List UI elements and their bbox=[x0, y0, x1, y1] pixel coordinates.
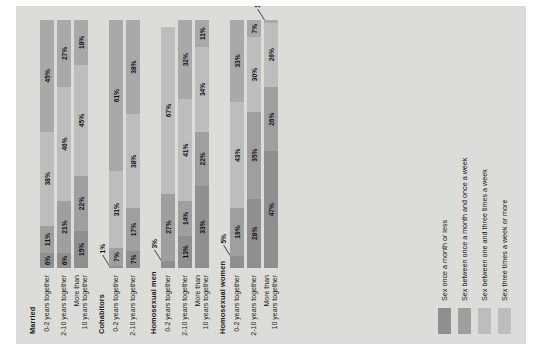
bar-row-label: 0-2 years together bbox=[160, 272, 176, 334]
bar-segment: 28% bbox=[247, 199, 261, 268]
bar-row-label: 0-2 years together bbox=[39, 272, 55, 334]
bar-row-label-line: 2-10 years together bbox=[250, 275, 258, 336]
legend-label: Sex three times a week or more bbox=[500, 200, 509, 301]
bar-segment: 11% bbox=[195, 20, 209, 47]
group-heading-homosexual-women: Homosexual women bbox=[218, 261, 227, 334]
bar-segment-value: 28% bbox=[251, 227, 258, 240]
bar-row: 0-2 years together6%11%38%45% bbox=[39, 16, 55, 334]
bar-segment-value: 11% bbox=[199, 27, 206, 40]
bar-segment-value: 38% bbox=[130, 61, 137, 74]
bar-row: 0-2 years together7%31%61% bbox=[108, 16, 124, 334]
bar-segment-value: 33% bbox=[234, 54, 241, 67]
bar-segment bbox=[161, 261, 175, 268]
bar-segment: 6% bbox=[40, 253, 54, 268]
bar-row-label: More than10 years together bbox=[263, 272, 279, 334]
bar-segment-value: 43% bbox=[234, 149, 241, 162]
chart-board: Married0-2 years together6%11%38%45%2-10… bbox=[16, 6, 526, 344]
bar-segment: 31% bbox=[109, 171, 123, 248]
bar-segment-value: 33% bbox=[199, 220, 206, 233]
bar-segment: 38% bbox=[126, 114, 140, 208]
bar-segment-value: 67% bbox=[165, 104, 172, 117]
bar-segment: 17% bbox=[126, 208, 140, 250]
bar-segment bbox=[264, 20, 278, 22]
legend-swatch bbox=[458, 308, 471, 334]
stacked-bar: 27%67% bbox=[161, 20, 175, 268]
bar-segment-value: 7% bbox=[130, 255, 137, 265]
bar-segment-value: 31% bbox=[113, 203, 120, 216]
bar-row-label-line: 10 years together bbox=[202, 275, 210, 329]
bar-segment-value: 7% bbox=[113, 252, 120, 262]
bar-row-label-line: 0-2 years together bbox=[43, 275, 51, 332]
bar-segment: 26% bbox=[264, 87, 278, 151]
bar-row: More than10 years together47%26%26% bbox=[263, 16, 279, 334]
bar-segment: 11% bbox=[40, 226, 54, 253]
bar-segment-value: 61% bbox=[113, 89, 120, 102]
bar-row-label-line: 2-10 years together bbox=[181, 275, 189, 336]
bar-segment-value: 46% bbox=[61, 137, 68, 150]
bar-row-label: More than10 years together bbox=[73, 272, 89, 334]
legend-label: Sex between once a month and once a week bbox=[460, 158, 469, 301]
bar-segment bbox=[109, 266, 123, 268]
bar-segment-value: 47% bbox=[268, 203, 275, 216]
bar-row-label-line: 0-2 years together bbox=[164, 275, 172, 332]
legend-swatch bbox=[438, 308, 451, 334]
bar-segment-value: 32% bbox=[182, 53, 189, 66]
bar-segment: 43% bbox=[230, 102, 244, 209]
bar-segment: 13% bbox=[178, 236, 192, 268]
legend-item: Sex between once a month and once a week bbox=[456, 16, 473, 334]
bar-segment: 34% bbox=[195, 47, 209, 131]
bar-segment: 7% bbox=[126, 251, 140, 268]
bar-segment: 14% bbox=[178, 201, 192, 236]
bar-row-label-line: 10 years together bbox=[81, 275, 89, 329]
stacked-bar: 7%17%38%38% bbox=[126, 20, 140, 268]
bar-segment: 67% bbox=[161, 27, 175, 193]
bar-segment: 32% bbox=[178, 20, 192, 99]
bar-row-label-line: 2-10 years together bbox=[129, 275, 137, 336]
bar-segment-value: 41% bbox=[182, 144, 189, 157]
stacked-bar: 7%31%61% bbox=[109, 20, 123, 268]
legend-item: Sex once a month or less bbox=[436, 16, 453, 334]
bar-segment-value: 34% bbox=[199, 83, 206, 96]
legend-swatch bbox=[478, 308, 491, 334]
bar-segment: 27% bbox=[161, 194, 175, 261]
bar-row-label-line: 0-2 years together bbox=[112, 275, 120, 332]
bar-row-label: 0-2 years together bbox=[229, 272, 245, 334]
bar-segment-value: 13% bbox=[182, 245, 189, 258]
bar-segment: 22% bbox=[74, 176, 88, 231]
chart-legend: Sex once a month or lessSex between once… bbox=[436, 16, 516, 334]
figure-page: FIGURE 3.1 Married0-2 years together6%11… bbox=[0, 0, 542, 350]
bar-segment: 19% bbox=[230, 209, 244, 256]
bar-segment-value: 7% bbox=[251, 24, 258, 34]
bar-segment: 45% bbox=[40, 20, 54, 132]
bar-row-label: 0-2 years together bbox=[108, 272, 124, 334]
bar-segment-value: 22% bbox=[78, 197, 85, 210]
bar-segment: 30% bbox=[247, 37, 261, 111]
bar-segment-value-callout: 5% bbox=[220, 234, 227, 244]
bar-row-label-line: 2-10 years together bbox=[60, 275, 68, 336]
bar-segment: 27% bbox=[57, 20, 71, 87]
bar-row: 0-2 years together19%43%33% bbox=[229, 16, 245, 334]
group-heading-homosexual-men: Homosexual men bbox=[149, 271, 158, 334]
bar-segment bbox=[230, 256, 244, 268]
stacked-bar: 19%43%33% bbox=[230, 20, 244, 268]
legend-label: Sex between one and three times a week bbox=[480, 169, 489, 301]
group-heading-married: Married bbox=[28, 307, 37, 334]
bar-segment-value: 17% bbox=[130, 223, 137, 236]
stacked-bar: 33%22%34%11% bbox=[195, 20, 209, 268]
bar-row-label-line: 0-2 years together bbox=[233, 275, 241, 332]
stacked-bar: 47%26%26% bbox=[264, 20, 278, 268]
bar-segment-value: 14% bbox=[182, 212, 189, 225]
bar-segment: 45% bbox=[74, 65, 88, 177]
legend-item: Sex three times a week or more bbox=[496, 16, 513, 334]
bar-row-label-line: More than bbox=[263, 275, 271, 307]
bar-segment: 47% bbox=[264, 151, 278, 268]
bar-segment: 15% bbox=[74, 231, 88, 268]
legend-swatch bbox=[498, 308, 511, 334]
bar-segment: 46% bbox=[57, 87, 71, 201]
bar-segment-value: 27% bbox=[61, 47, 68, 60]
rotated-chart-wrapper: Married0-2 years together6%11%38%45%2-10… bbox=[16, 6, 526, 344]
bar-segment-value-callout: 3% bbox=[151, 239, 158, 249]
bar-row: More than10 years together33%22%34%11% bbox=[194, 16, 210, 334]
bar-segment: 26% bbox=[264, 23, 278, 87]
bar-segment-value-callout: 1% bbox=[99, 244, 106, 254]
